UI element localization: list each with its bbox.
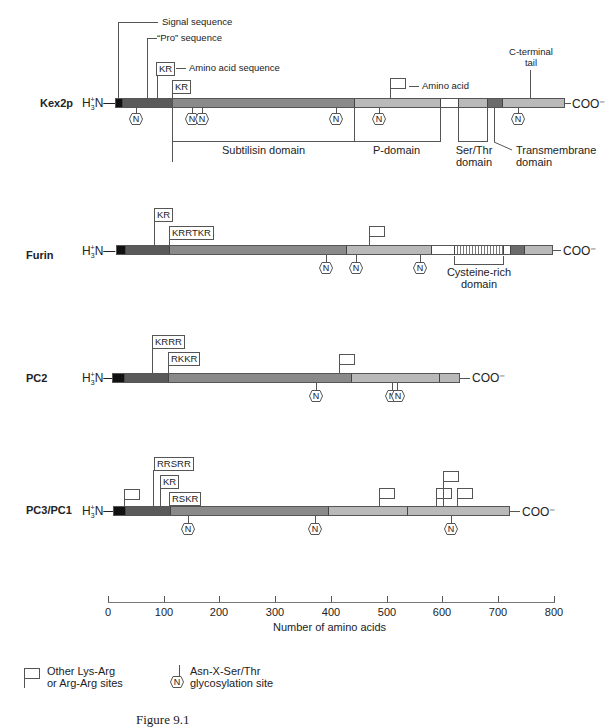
pro-sequence-label: “Pro” sequence: [157, 32, 222, 43]
protein-name-kex2p: Kex2p: [40, 97, 73, 109]
tick-label: 0: [93, 606, 123, 618]
glycosylation-site-icon: N: [309, 390, 323, 402]
c-terminus-label: COO⁻: [572, 97, 605, 111]
cleavage-site-box: RKKR: [168, 352, 200, 366]
signal-sequence-label: Signal sequence: [162, 16, 232, 27]
glycosylation-site-icon: N: [413, 262, 427, 274]
transmembrane-domain-label: Transmembrane domain: [516, 144, 596, 168]
c-terminus-label: COO⁻: [563, 244, 596, 258]
tick-label: 300: [260, 606, 290, 618]
c-terminal-tail-label: C-terminal tail: [508, 46, 554, 68]
glycosylation-site-icon: N: [372, 113, 386, 125]
glycosylation-site-icon: N: [195, 113, 209, 125]
pc3-pc1-bar: [113, 506, 510, 516]
protein-name-pc2: PC2: [26, 372, 47, 384]
lys-arg-site-flag: [457, 488, 473, 499]
lys-arg-site-flag: [390, 78, 406, 89]
lys-arg-site-flag: [124, 489, 140, 500]
n-terminus-label: H3+N—: [82, 371, 115, 386]
kex2p-bar: [115, 98, 565, 108]
glycosylation-site-icon: N: [170, 676, 184, 688]
glycosylation-site-icon: N: [511, 113, 525, 125]
cleavage-site-box: RSKR: [169, 492, 201, 506]
cleavage-site-box: KRRTKR: [169, 226, 214, 240]
tick-label: 400: [316, 606, 346, 618]
amino-acid-label: Amino acid: [422, 80, 469, 91]
glycosylation-site-icon: N: [349, 262, 363, 274]
n-terminus-label: H3+N—: [82, 96, 115, 111]
axis-line: [108, 602, 555, 603]
tick-label: 200: [204, 606, 234, 618]
cysteine-rich-domain-label: Cysteine-rich domain: [446, 266, 512, 290]
n-terminus-label: H3+N—: [82, 504, 115, 519]
tick-label: 500: [372, 606, 402, 618]
tick-label: 700: [483, 606, 513, 618]
p-domain-segment: [355, 99, 441, 107]
ser-thr-segment: [459, 99, 488, 107]
n-terminus-label: H3+N—: [82, 244, 115, 259]
subtilisin-segment: [173, 99, 355, 107]
glycosylation-site-icon: N: [319, 262, 333, 274]
c-terminus-label: COO⁻: [472, 371, 505, 385]
subtilisin-domain-label: Subtilisin domain: [222, 144, 305, 156]
tick-label: 800: [539, 606, 569, 618]
c-tail-segment: [503, 99, 564, 107]
legend-flag-label: Other Lys-Arg or Arg-Arg sites: [47, 665, 123, 689]
glycosylation-site-icon: N: [444, 523, 458, 535]
cleavage-site-box: KRRR: [152, 335, 185, 349]
cleavage-site-box: KR: [156, 62, 175, 76]
cleavage-site-box: KR: [172, 80, 191, 94]
lys-arg-site-flag: [379, 488, 395, 499]
cleavage-site-box: KR: [154, 208, 173, 222]
lys-arg-site-flag: [443, 471, 459, 482]
glycosylation-site-icon: N: [129, 113, 143, 125]
protein-name-pc3-pc1: PC3/PC1: [26, 504, 72, 516]
transmembrane-segment: [488, 99, 503, 107]
pro-segment: [123, 99, 173, 107]
amino-acid-sequence-label: Amino acid sequence: [189, 62, 280, 73]
pc2-bar: [112, 373, 460, 383]
ser-thr-domain-label: Ser/Thr domain: [454, 144, 494, 168]
glycosylation-site-icon: N: [329, 113, 343, 125]
glycosylation-site-icon: N: [308, 523, 322, 535]
protein-name-furin: Furin: [26, 249, 54, 261]
lys-arg-site-flag: [436, 488, 452, 499]
figure-caption: Figure 9.1: [136, 712, 189, 728]
tick-label: 600: [427, 606, 457, 618]
lys-arg-site-flag: [369, 226, 385, 237]
signal-segment: [116, 99, 123, 107]
lys-arg-site-flag: [339, 354, 355, 365]
p-domain-label: P-domain: [373, 144, 420, 156]
c-terminus-label: COO⁻: [522, 505, 555, 519]
lys-arg-site-flag-icon: [24, 668, 40, 679]
furin-bar: [116, 245, 553, 255]
glycosylation-site-icon: N: [391, 390, 405, 402]
tick-label: 100: [149, 606, 179, 618]
cleavage-site-box: KR: [160, 475, 179, 489]
axis-title: Number of amino acids: [273, 621, 386, 633]
spacer-segment: [441, 99, 459, 107]
glycosylation-site-icon: N: [181, 523, 195, 535]
cysteine-rich-segment: [455, 246, 504, 254]
cleavage-site-box: RRSRR: [154, 457, 194, 471]
legend-glycosylation-label: Asn-X-Ser/Thr glycosylation site: [190, 665, 273, 689]
